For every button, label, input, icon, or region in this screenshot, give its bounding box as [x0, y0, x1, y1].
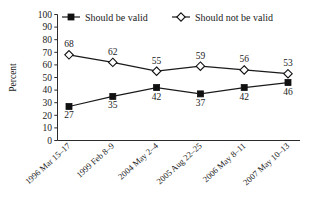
y-tick-label: 80 — [43, 35, 53, 45]
data-point-label: 53 — [283, 58, 293, 68]
y-tick-label: 10 — [43, 123, 53, 133]
data-point-label: 35 — [108, 100, 118, 110]
legend-item-label: Should not be valid — [195, 12, 273, 23]
data-point-label: 68 — [64, 39, 74, 49]
data-point-marker — [285, 80, 291, 86]
data-point-label: 55 — [152, 56, 162, 66]
data-point-marker — [110, 93, 116, 99]
data-point-label: 59 — [196, 51, 206, 61]
data-point-label: 27 — [64, 110, 74, 120]
y-axis-title: Percent — [8, 63, 18, 92]
data-point-marker — [197, 91, 203, 97]
data-point-marker — [154, 85, 160, 91]
legend-marker-filled-square — [68, 14, 74, 20]
y-tick-label: 20 — [43, 111, 53, 121]
data-point-label: 62 — [108, 47, 118, 57]
line-chart: Should be validShould not be valid 01020… — [0, 0, 310, 214]
data-point-label: 56 — [239, 54, 249, 64]
y-tick-label: 50 — [43, 73, 53, 83]
y-tick-label: 90 — [43, 22, 53, 32]
y-tick-label: 100 — [38, 10, 53, 20]
y-tick-label: 0 — [47, 136, 52, 146]
data-point-label: 46 — [283, 87, 293, 97]
y-tick-label: 30 — [43, 98, 53, 108]
data-point-label: 37 — [196, 98, 206, 108]
chart-canvas: Should be validShould not be valid 01020… — [0, 0, 310, 214]
legend-item-label: Should be valid — [85, 12, 148, 23]
y-tick-label: 60 — [43, 60, 53, 70]
y-tick-label: 40 — [43, 85, 53, 95]
y-tick-label: 70 — [43, 48, 53, 58]
data-point-marker — [241, 85, 247, 91]
data-point-label: 42 — [152, 92, 162, 102]
data-point-marker — [66, 103, 72, 109]
data-point-label: 42 — [239, 92, 249, 102]
